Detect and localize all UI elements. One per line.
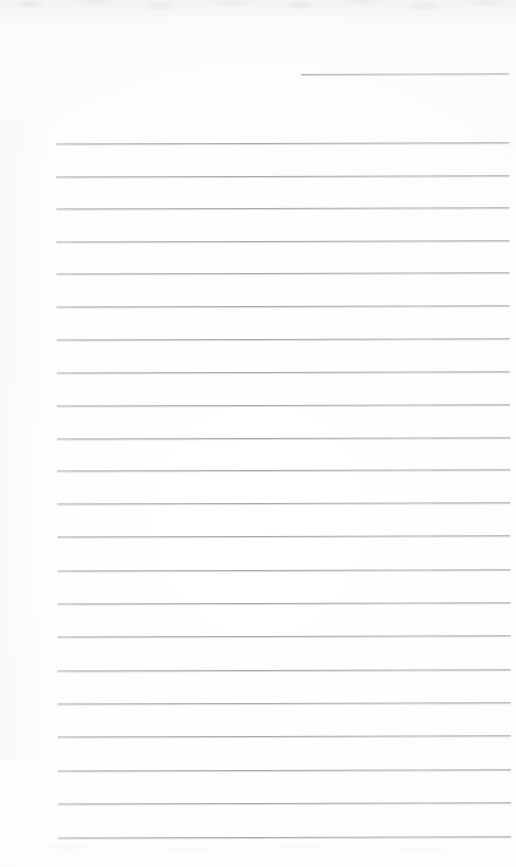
rule-line xyxy=(57,404,510,406)
ruling-layer xyxy=(0,0,516,867)
rule-line xyxy=(58,769,511,771)
rule-line xyxy=(56,240,509,242)
rule-line xyxy=(56,175,509,177)
rule-line xyxy=(58,802,511,804)
rule-line xyxy=(57,602,510,604)
rule-line xyxy=(57,535,510,537)
rule-line xyxy=(58,669,511,671)
rule-line xyxy=(57,502,510,504)
rule-line xyxy=(58,635,511,637)
rule-line-partial xyxy=(301,73,509,75)
rule-line xyxy=(57,371,510,373)
rule-line xyxy=(57,305,510,307)
scanned-page xyxy=(0,0,516,867)
rule-line xyxy=(58,836,511,838)
rule-line xyxy=(57,469,510,471)
rule-line xyxy=(56,207,509,209)
rule-line xyxy=(57,437,510,439)
rule-line xyxy=(58,702,511,704)
rule-line xyxy=(56,142,509,144)
rule-line xyxy=(57,569,510,571)
rule-line xyxy=(58,735,511,737)
rule-line xyxy=(57,272,510,274)
rule-line xyxy=(57,338,510,340)
